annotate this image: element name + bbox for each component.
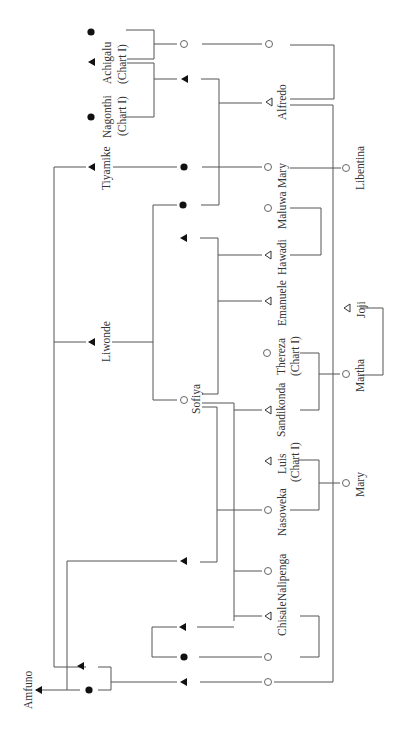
person-label-martha: Martha — [354, 359, 366, 392]
kinship-diagram — [0, 0, 408, 745]
male-living-symbol — [344, 304, 350, 312]
female-living-symbol — [265, 507, 272, 514]
male-living-symbol — [265, 406, 271, 414]
person-label-nalipenga: Nalipenga — [276, 554, 288, 601]
female-living-symbol — [343, 480, 350, 487]
female-living-symbol — [181, 397, 188, 404]
person-label-thereza: Thereza — [275, 338, 287, 375]
person-label-maluwa: Maluwa — [276, 191, 288, 229]
person-label-nagonthi: Nagonthi — [101, 95, 113, 138]
person-label-nasoweka: Nasoweka — [276, 488, 288, 536]
person-label-chisale: Chisale — [276, 602, 288, 637]
male-deceased-symbol — [181, 75, 188, 83]
male-living-symbol — [265, 612, 271, 620]
person-label-liwonde: Liwonde — [100, 321, 112, 362]
female-deceased-symbol — [87, 113, 94, 120]
person-note-luis: (Chart I) — [289, 442, 301, 482]
male-living-symbol — [265, 457, 271, 465]
female-living-symbol — [264, 350, 271, 357]
male-deceased-symbol — [88, 163, 95, 171]
person-label-hawadi: Hawadi — [276, 239, 288, 275]
male-deceased-symbol — [77, 662, 84, 670]
person-label-joji: Joji — [355, 301, 367, 318]
female-deceased-symbol — [179, 201, 186, 208]
male-deceased-symbol — [179, 623, 186, 631]
female-living-symbol — [265, 568, 272, 575]
male-deceased-symbol — [180, 234, 187, 242]
female-deceased-symbol — [87, 28, 94, 35]
person-label-mary2: Mary — [354, 472, 366, 497]
female-deceased-symbol — [85, 686, 92, 693]
male-deceased-symbol — [35, 686, 42, 694]
person-label-mary1: Mary — [276, 163, 288, 188]
person-label-emanuele: Emanuele — [276, 280, 288, 326]
female-living-symbol — [266, 41, 273, 48]
female-living-symbol — [265, 205, 272, 212]
person-note-nagonthi: (Chart I) — [116, 96, 128, 136]
male-living-symbol — [265, 297, 271, 305]
female-living-symbol — [265, 679, 272, 686]
person-label-sandikonda: Sandikonda — [275, 383, 287, 437]
person-symbols — [35, 28, 350, 694]
person-label-tiyamike: Tiyamike — [100, 146, 112, 190]
person-label-sofiya: Sofiya — [190, 384, 202, 414]
male-deceased-symbol — [88, 338, 95, 346]
female-deceased-symbol — [180, 163, 187, 170]
female-living-symbol — [265, 654, 272, 661]
connector-lines — [36, 30, 383, 690]
male-deceased-symbol — [180, 557, 187, 565]
person-label-achigalu: Achigalu — [101, 42, 113, 84]
male-living-symbol — [265, 251, 271, 259]
female-living-symbol — [343, 371, 350, 378]
person-label-luis: Luis — [276, 454, 288, 474]
female-living-symbol — [343, 165, 350, 172]
female-living-symbol — [265, 164, 272, 171]
person-label-alfredo: Alfredo — [276, 84, 288, 120]
male-living-symbol — [266, 98, 272, 106]
person-note-achigalu: (Chart I) — [116, 44, 128, 84]
female-deceased-symbol — [180, 653, 187, 660]
female-living-symbol — [181, 41, 188, 48]
male-deceased-symbol — [88, 58, 95, 66]
person-label-libentina: Libentina — [354, 146, 366, 190]
person-label-amfuno: Amfuno — [22, 671, 34, 709]
person-note-thereza: (Chart I) — [289, 336, 301, 376]
male-deceased-symbol — [180, 678, 187, 686]
